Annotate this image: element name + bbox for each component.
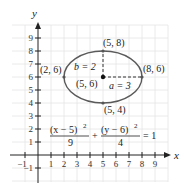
y-tick-label: 5: [29, 85, 34, 95]
eq-exp-2: 2: [134, 122, 138, 130]
eq-plus: +: [92, 130, 98, 141]
x-tick-label: 7: [127, 159, 132, 169]
x-tick-label: 8: [140, 159, 145, 169]
x-tick-label: 3: [75, 159, 80, 169]
vertex-left-point: [62, 75, 65, 78]
y-tick-label: 8: [29, 46, 34, 56]
y-axis-label: y: [31, 7, 37, 19]
x-tick-label: 1: [49, 159, 54, 169]
eq-denominator-1: 9: [68, 137, 73, 148]
x-tick-label: 2: [62, 159, 67, 169]
y-tick-label: 2: [29, 124, 34, 134]
eq-rhs: = 1: [143, 130, 156, 141]
x-tick-label: 5: [101, 159, 106, 169]
vertex-right-point: [140, 75, 143, 78]
y-tick-label: 9: [29, 33, 34, 43]
center-label: (5, 6): [76, 78, 98, 90]
y-tick-label: 4: [29, 98, 34, 108]
ellipse-graph: −1 1 2 3 4 5 6 7 8 9 −1 1 2 3 4 5 6 7 8 …: [0, 0, 184, 191]
eq-numerator-2: (y − 6): [101, 124, 128, 136]
left-vertex-label: (2, 6): [40, 64, 62, 76]
eq-denominator-2: 4: [118, 137, 123, 148]
b-label: b = 2: [74, 61, 96, 72]
bottom-covertex-label: (5, 4): [104, 104, 126, 116]
center-point: [101, 75, 105, 79]
y-tick-label: 1: [29, 137, 34, 147]
right-vertex-label: (8, 6): [143, 63, 165, 75]
x-tick-label: 9: [153, 159, 158, 169]
top-covertex-label: (5, 8): [103, 37, 125, 49]
x-tick-label: 4: [88, 159, 93, 169]
y-tick-label: 6: [29, 72, 34, 82]
y-tick-label: −1: [23, 163, 33, 173]
a-label: a = 3: [109, 80, 131, 91]
eq-numerator-1: (x − 5): [50, 124, 77, 136]
x-tick-label: 6: [114, 159, 119, 169]
x-axis-label: x: [173, 149, 179, 161]
covertex-top-point: [101, 49, 104, 52]
x-axis-arrow-icon: [164, 152, 171, 158]
y-tick-label: 7: [29, 59, 34, 69]
y-tick-label: 3: [29, 111, 34, 121]
y-axis-arrow-icon: [35, 22, 41, 29]
eq-exp-1: 2: [83, 122, 87, 130]
